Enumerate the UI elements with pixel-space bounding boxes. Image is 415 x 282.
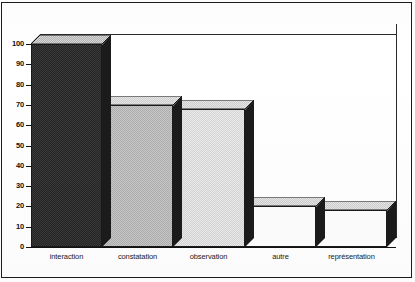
x-axis-label-constatation: constatation: [102, 252, 173, 261]
bar-side-face: [173, 96, 182, 247]
x-axis-label-autre: autre: [245, 252, 316, 261]
y-axis-tick: [26, 247, 32, 248]
x-axis-label-représentation: représentation: [316, 252, 387, 261]
bar-front-face: [245, 206, 316, 247]
x-axis-label-observation: observation: [173, 252, 244, 261]
bar-front-face: [102, 105, 173, 247]
y-axis-tick-label: 30: [0, 182, 24, 190]
y-axis-tick-label: 0: [0, 243, 24, 251]
bar-front-face: [31, 44, 102, 247]
y-axis-tick-label: 80: [0, 81, 24, 89]
y-axis-tick-label: 50: [0, 142, 24, 150]
x-axis-line: [31, 247, 396, 248]
y-axis-tick-label: 20: [0, 202, 24, 210]
plot-area: 0102030405060708090100 interactionconsta…: [0, 0, 415, 282]
y-axis-tick-label: 100: [0, 40, 24, 48]
y-axis-tick-label: 40: [0, 162, 24, 170]
y-axis-tick-label: 70: [0, 101, 24, 109]
bar-chart-figure: 0102030405060708090100 interactionconsta…: [0, 0, 415, 282]
y-axis-tick-label: 10: [0, 223, 24, 231]
bar-front-face: [316, 210, 387, 247]
bar-side-face: [102, 35, 111, 247]
bar-front-face: [173, 109, 245, 247]
x-axis-label-interaction: interaction: [31, 252, 102, 261]
y-axis-tick-label: 90: [0, 60, 24, 68]
bar-side-face: [245, 100, 254, 247]
y-axis-tick-label: 60: [0, 121, 24, 129]
